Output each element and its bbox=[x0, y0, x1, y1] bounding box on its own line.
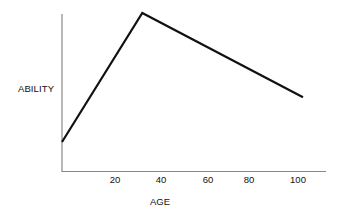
chart-plot bbox=[0, 0, 340, 216]
ability-line bbox=[62, 13, 303, 142]
y-axis-label: ABILITY bbox=[18, 83, 54, 94]
x-tick-40: 40 bbox=[156, 174, 167, 185]
x-tick-100: 100 bbox=[290, 174, 306, 185]
x-axis-label: AGE bbox=[150, 196, 170, 207]
x-tick-60: 60 bbox=[203, 174, 214, 185]
x-tick-20: 20 bbox=[110, 174, 121, 185]
line-chart: ABILITY AGE 20 40 60 80 100 bbox=[0, 0, 340, 216]
x-tick-80: 80 bbox=[244, 174, 255, 185]
